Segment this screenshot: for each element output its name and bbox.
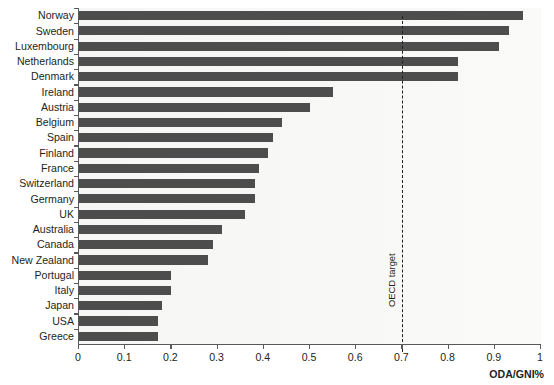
- x-axis-tick-label: 0.6: [348, 351, 363, 363]
- y-axis-tick: [74, 313, 78, 314]
- y-axis-tick: [74, 329, 78, 330]
- y-axis-tick: [74, 298, 78, 299]
- x-axis-tick: [401, 344, 402, 349]
- x-axis-tick-label: 0.8: [440, 351, 455, 363]
- bar-fill: [79, 118, 282, 127]
- category-label: Luxembourg: [0, 41, 74, 51]
- category-label: Austria: [0, 102, 74, 112]
- category-label: Australia: [0, 224, 74, 234]
- y-axis-tick: [74, 252, 78, 253]
- category-label: Greece: [0, 331, 74, 341]
- category-label: UK: [0, 209, 74, 219]
- bar: [79, 210, 245, 219]
- category-label: Finland: [0, 148, 74, 158]
- oecd-target-line: [402, 16, 403, 352]
- bar: [79, 194, 255, 203]
- y-axis-tick: [74, 54, 78, 55]
- x-axis-tick-label: 0.9: [486, 351, 501, 363]
- y-axis-tick: [74, 145, 78, 146]
- y-axis-tick: [74, 237, 78, 238]
- x-axis-tick: [494, 344, 495, 349]
- category-label: New Zealand: [0, 255, 74, 265]
- category-label: Spain: [0, 132, 74, 142]
- bar-fill: [79, 87, 333, 96]
- y-axis-tick: [74, 222, 78, 223]
- bar: [79, 148, 268, 157]
- bar: [79, 271, 171, 280]
- x-axis-tick-label: 0.4: [255, 351, 270, 363]
- x-axis-tick: [263, 344, 264, 349]
- bar-fill: [79, 271, 171, 280]
- bar-fill: [79, 332, 158, 341]
- bar: [79, 164, 259, 173]
- category-label: Sweden: [0, 26, 74, 36]
- bar-fill: [79, 286, 171, 295]
- category-label: Italy: [0, 285, 74, 295]
- plot-area: [78, 8, 541, 344]
- bar-fill: [79, 225, 222, 234]
- category-label: Japan: [0, 300, 74, 310]
- bar-fill: [79, 301, 162, 310]
- y-axis-tick: [74, 161, 78, 162]
- category-label: Belgium: [0, 117, 74, 127]
- x-axis-title: ODA/GNI%: [489, 368, 544, 380]
- bar-fill: [79, 240, 213, 249]
- category-label: USA: [0, 316, 74, 326]
- bar-fill: [79, 316, 158, 325]
- y-axis-tick: [74, 84, 78, 85]
- bar-fill: [79, 210, 245, 219]
- bar-fill: [79, 194, 255, 203]
- y-axis-tick: [74, 207, 78, 208]
- bar-fill: [79, 133, 273, 142]
- category-label: Netherlands: [0, 56, 74, 66]
- bar-fill: [79, 57, 458, 66]
- x-axis-tick-label: 0.3: [209, 351, 224, 363]
- x-axis-tick: [124, 344, 125, 349]
- category-label: Canada: [0, 239, 74, 249]
- y-axis-tick: [74, 176, 78, 177]
- x-axis-tick-label: 1: [537, 351, 543, 363]
- x-axis-tick-label: 0.2: [163, 351, 178, 363]
- category-label: Germany: [0, 194, 74, 204]
- bar: [79, 332, 158, 341]
- y-axis-tick: [74, 283, 78, 284]
- bar: [79, 240, 213, 249]
- x-axis-tick-label: 0.7: [394, 351, 409, 363]
- category-label: Denmark: [0, 71, 74, 81]
- bar: [79, 87, 333, 96]
- y-axis-tick: [74, 191, 78, 192]
- y-axis-tick: [74, 100, 78, 101]
- y-axis-tick: [74, 130, 78, 131]
- x-axis-tick: [540, 344, 541, 349]
- category-label: Ireland: [0, 87, 74, 97]
- bar-fill: [79, 103, 310, 112]
- x-axis-tick: [170, 344, 171, 349]
- bar: [79, 26, 509, 35]
- bar: [79, 225, 222, 234]
- bar: [79, 179, 255, 188]
- y-axis-tick: [74, 69, 78, 70]
- bar: [79, 286, 171, 295]
- bar-fill: [79, 255, 208, 264]
- x-axis-tick-label: 0.5: [302, 351, 317, 363]
- category-label: Switzerland: [0, 178, 74, 188]
- oda-gni-bar-chart: NorwaySwedenLuxembourgNetherlandsDenmark…: [0, 0, 554, 385]
- y-axis-tick: [74, 8, 78, 9]
- bar: [79, 11, 523, 20]
- bar-fill: [79, 42, 499, 51]
- category-label: France: [0, 163, 74, 173]
- bar-fill: [79, 164, 259, 173]
- x-axis-tick-label: 0: [75, 351, 81, 363]
- y-axis-tick: [74, 23, 78, 24]
- y-axis-tick: [74, 115, 78, 116]
- x-axis-tick: [309, 344, 310, 349]
- bar: [79, 72, 458, 81]
- bar-fill: [79, 72, 458, 81]
- bar-fill: [79, 148, 268, 157]
- bar: [79, 133, 273, 142]
- bar-fill: [79, 26, 509, 35]
- x-axis-tick: [355, 344, 356, 349]
- y-axis-tick: [74, 268, 78, 269]
- bar: [79, 57, 458, 66]
- x-axis-tick: [217, 344, 218, 349]
